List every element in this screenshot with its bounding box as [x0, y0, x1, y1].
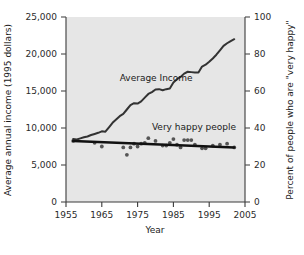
happiness-data-point	[172, 137, 176, 141]
happiness-data-point	[225, 142, 229, 146]
left-tick-label: 10,000	[26, 123, 58, 133]
happiness-data-point	[100, 145, 104, 149]
x-tick-label: 2005	[234, 210, 257, 220]
y-axis-title-left: Average annual income (1995 dollars)	[3, 24, 13, 196]
right-tick-label: 0	[254, 197, 260, 207]
right-tick-label: 60	[254, 86, 266, 96]
happiness-data-point	[182, 138, 186, 142]
x-tick-label: 1975	[126, 210, 149, 220]
y-axis-title-right: Percent of people who are "very happy"	[285, 20, 295, 199]
x-tick-label: 1965	[90, 210, 113, 220]
happiness-data-point	[154, 139, 158, 143]
x-axis-title: Year	[144, 225, 164, 235]
annotation-very-happy-people: Very happy people	[152, 122, 237, 132]
left-tick-label: 20,000	[26, 49, 58, 59]
right-axis-ticks: 020406080100	[245, 12, 271, 207]
x-tick-label: 1955	[55, 210, 78, 220]
happiness-data-point	[186, 138, 190, 142]
right-tick-label: 40	[254, 123, 266, 133]
right-tick-label: 80	[254, 49, 266, 59]
happiness-data-point	[146, 136, 150, 140]
income-vs-happiness-chart: 05,00010,00015,00020,00025,000 020406080…	[0, 0, 304, 255]
left-tick-label: 5,000	[31, 160, 57, 170]
left-axis-ticks: 05,00010,00015,00020,00025,000	[26, 12, 67, 207]
left-tick-label: 15,000	[26, 86, 58, 96]
right-tick-label: 100	[254, 12, 271, 22]
plot-area-background	[66, 17, 245, 202]
happiness-data-point	[125, 153, 129, 157]
chart-figure: 05,00010,00015,00020,00025,000 020406080…	[0, 0, 304, 255]
right-tick-label: 20	[254, 160, 266, 170]
happiness-data-point	[129, 146, 133, 150]
annotation-average-income: Average Income	[120, 73, 193, 83]
happiness-data-point	[189, 138, 193, 142]
left-tick-label: 25,000	[26, 12, 58, 22]
x-axis-ticks: 195519651975198519952005	[55, 202, 257, 220]
happiness-data-point	[136, 145, 140, 149]
x-tick-label: 1995	[198, 210, 221, 220]
x-tick-label: 1985	[162, 210, 185, 220]
happiness-data-point	[121, 146, 125, 150]
left-tick-label: 0	[51, 197, 57, 207]
